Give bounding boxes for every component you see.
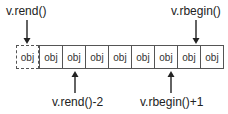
vector-cells: obj obj obj obj obj obj obj obj obj bbox=[16, 45, 224, 69]
cell: obj bbox=[108, 45, 132, 69]
cell: obj bbox=[85, 45, 109, 69]
cell: obj bbox=[131, 45, 155, 69]
arrow-up-icon-rbegin-plus-1 bbox=[168, 71, 175, 93]
cell: obj bbox=[177, 45, 201, 69]
cell: obj bbox=[154, 45, 178, 69]
cell: obj bbox=[200, 45, 224, 69]
arrow-down-icon-rend bbox=[24, 20, 31, 44]
cell: obj bbox=[39, 45, 63, 69]
cell-past-end: obj bbox=[16, 45, 39, 69]
arrow-up-icon-rend-minus-2 bbox=[72, 71, 79, 93]
cell: obj bbox=[62, 45, 86, 69]
arrow-down-icon-rbegin bbox=[193, 20, 200, 44]
